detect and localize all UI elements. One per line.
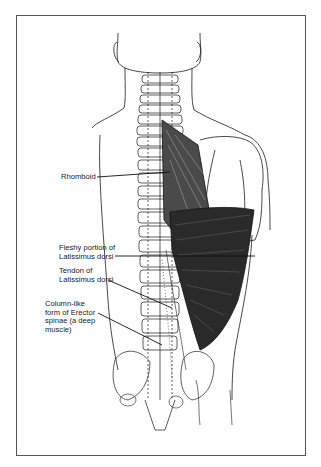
label-fleshy-latissimus-dorsi: Fleshy portion of Latissimus dorsi xyxy=(59,244,115,261)
label-tendon-latissimus-dorsi: Tendon of Latissimus dorsi xyxy=(59,267,113,284)
label-rhomboid: Rhomboid xyxy=(61,173,96,182)
label-erector-spinae: Column-like form of Erector spinae (a de… xyxy=(45,300,95,334)
anatomy-illustration xyxy=(0,0,321,467)
spine xyxy=(148,72,172,400)
